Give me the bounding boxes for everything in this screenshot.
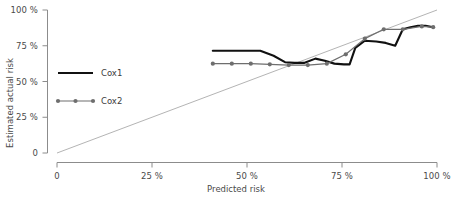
series-marker-cox2: [344, 52, 348, 56]
calibration-plot-figure: 100 % 75 % 50 % 25 % 0 0 25 % 50 % 75 % …: [0, 0, 452, 206]
legend-marker-cox2-1: [56, 99, 60, 103]
series-marker-cox2: [325, 62, 329, 66]
legend-marker-cox2-2: [73, 99, 77, 103]
series-marker-cox2: [211, 62, 215, 66]
y-tick-label-100: 100 %: [0, 5, 38, 15]
plot-canvas: [0, 0, 452, 206]
series-marker-cox2: [401, 27, 405, 31]
x-tick-label-75: 75 %: [331, 171, 353, 181]
y-axis-title: Estimated actual risk: [5, 43, 15, 163]
legend-marker-cox2-3: [91, 99, 95, 103]
x-tick-label-50: 50 %: [236, 171, 258, 181]
series-marker-cox2: [306, 63, 310, 67]
series-cox1: [213, 26, 433, 65]
x-axis-title: Predicted risk: [207, 184, 265, 194]
series-marker-cox2: [268, 62, 272, 66]
legend-label-cox1: Cox1: [101, 68, 122, 78]
legend-label-cox2: Cox2: [101, 96, 122, 106]
series-marker-cox2: [363, 37, 367, 41]
x-tick-label-100: 100 %: [423, 171, 451, 181]
series-marker-cox2: [287, 63, 291, 67]
series-marker-cox2: [382, 27, 386, 31]
series-marker-cox2: [431, 25, 435, 29]
x-tick-label-25: 25 %: [141, 171, 163, 181]
series-marker-cox2: [249, 62, 253, 66]
series-marker-cox2: [230, 62, 234, 66]
series-line-cox1: [213, 26, 433, 65]
series-marker-cox2: [420, 24, 424, 28]
x-tick-label-0: 0: [54, 171, 60, 181]
data-series-layer: [211, 24, 436, 67]
